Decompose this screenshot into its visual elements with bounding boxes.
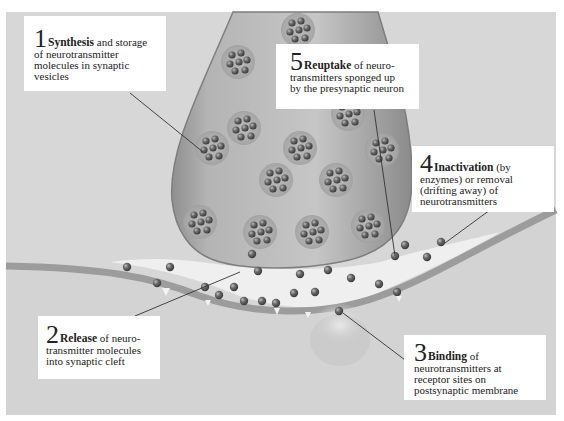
step-text: vesicles (34, 71, 166, 82)
step-text: of neuro- (351, 59, 394, 71)
label-synthesis: 1Synthesis and storage of neurotransmitt… (24, 16, 166, 91)
step-text: of (467, 350, 479, 362)
label-release: 2Release of neuro- transmitter molecules… (38, 316, 160, 379)
step-text: and storage (94, 36, 147, 48)
step-text: (by (493, 161, 510, 173)
step-term: Release (60, 332, 97, 344)
step-term: Reuptake (304, 59, 351, 71)
step-term: Synthesis (48, 36, 94, 48)
label-inactivation: 4Inactivation (by enzymes) or removal (d… (412, 146, 554, 212)
step-text: into synaptic cleft (46, 356, 160, 367)
step-text: postsynaptic membrane (414, 385, 546, 396)
step-text: by the presynaptic neuron (290, 83, 419, 94)
label-binding: 3Binding of neurotransmitters at recepto… (404, 335, 546, 400)
step-text: of neuro- (97, 332, 140, 344)
step-text: neurotransmitters (420, 196, 554, 207)
label-reuptake: 5Reuptake of neuro- transmitters sponged… (276, 44, 419, 109)
step-term: Inactivation (434, 161, 493, 173)
step-term: Binding (428, 350, 467, 362)
synapse-diagram: 1Synthesis and storage of neurotransmitt… (0, 0, 564, 421)
